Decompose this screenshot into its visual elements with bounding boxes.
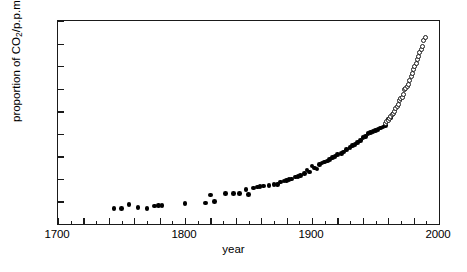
- x-tick-minor: [376, 221, 377, 225]
- x-tick-label: 2000: [425, 228, 450, 240]
- data-point: [112, 206, 117, 211]
- x-tick-minor: [122, 221, 123, 225]
- data-point: [160, 203, 165, 208]
- y-tick: [58, 44, 64, 45]
- x-tick-minor: [160, 218, 161, 224]
- x-tick-label: 1900: [298, 228, 323, 240]
- data-point: [223, 191, 228, 196]
- x-tick-minor: [337, 218, 338, 224]
- x-tick-minor: [299, 221, 300, 225]
- x-tick-minor: [71, 221, 72, 225]
- x-tick-minor: [325, 221, 326, 225]
- y-tick: [58, 111, 64, 112]
- x-tick-minor: [414, 218, 415, 224]
- data-point: [231, 191, 236, 196]
- x-tick-minor: [274, 221, 275, 225]
- x-tick-minor: [236, 218, 237, 224]
- x-tick-minor: [287, 218, 288, 224]
- data-point: [208, 193, 213, 198]
- x-tick-label: 1800: [171, 228, 196, 240]
- x-tick-minor: [96, 221, 97, 225]
- y-tick: [58, 66, 64, 67]
- data-point: [244, 187, 249, 192]
- y-tick: [58, 21, 64, 22]
- y-axis-title: proportion of CO2/p.p.m.: [10, 0, 22, 122]
- x-tick-minor: [147, 221, 148, 225]
- x-tick-minor: [388, 218, 389, 224]
- data-point: [307, 170, 312, 175]
- data-point: [119, 206, 124, 211]
- plot-area: 270280290300310320330340350360: [57, 20, 440, 225]
- x-tick-minor: [172, 221, 173, 225]
- data-point: [183, 201, 188, 206]
- x-tick-minor: [401, 221, 402, 225]
- data-point: [237, 191, 242, 196]
- x-tick-minor: [261, 218, 262, 224]
- x-tick: [58, 218, 59, 224]
- x-tick-minor: [83, 218, 84, 224]
- x-tick-minor: [134, 218, 135, 224]
- co2-vs-year-chart: proportion of CO2/p.p.m. year 2702802903…: [0, 0, 467, 272]
- x-axis-title: year: [0, 243, 467, 255]
- y-tick: [58, 224, 64, 225]
- y-tick: [58, 134, 64, 135]
- x-tick-minor: [210, 218, 211, 224]
- data-point: [261, 184, 266, 189]
- x-tick-minor: [363, 218, 364, 224]
- x-tick-minor: [249, 221, 250, 225]
- data-point: [127, 202, 132, 207]
- data-point: [423, 35, 428, 40]
- data-point: [145, 206, 150, 211]
- x-tick: [312, 218, 313, 224]
- data-point: [401, 92, 406, 97]
- y-tick: [58, 156, 64, 157]
- x-tick-minor: [109, 218, 110, 224]
- x-tick-minor: [426, 221, 427, 225]
- x-tick: [185, 218, 186, 224]
- data-layer: [58, 21, 439, 224]
- data-point: [420, 44, 425, 49]
- data-point: [267, 183, 272, 188]
- data-point: [203, 201, 208, 206]
- y-tick: [58, 179, 64, 180]
- y-tick: [58, 89, 64, 90]
- y-tick: [58, 201, 64, 202]
- data-point: [136, 205, 141, 210]
- x-tick-label: 1700: [44, 228, 69, 240]
- data-point: [315, 167, 320, 172]
- x-tick-minor: [223, 221, 224, 225]
- data-point: [212, 199, 217, 204]
- x-tick-minor: [350, 221, 351, 225]
- x-tick: [439, 218, 440, 224]
- data-point: [410, 71, 415, 76]
- data-point: [246, 192, 251, 197]
- x-tick-minor: [198, 221, 199, 225]
